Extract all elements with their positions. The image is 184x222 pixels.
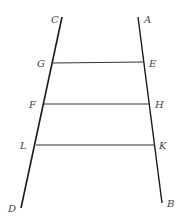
label-b: B [166, 198, 174, 209]
label-k: K [158, 140, 167, 151]
label-l: L [19, 140, 27, 151]
line-cd [21, 17, 62, 208]
label-c: C [51, 14, 59, 25]
label-d: D [7, 203, 16, 214]
label-g: G [37, 58, 45, 69]
label-f: F [28, 99, 37, 110]
rung-ge [53, 62, 144, 63]
label-a: A [143, 14, 151, 25]
label-h: H [154, 99, 164, 110]
ladder-diagram: C A G E F H L K D B [0, 0, 184, 222]
line-ab [138, 17, 162, 203]
label-e: E [148, 58, 157, 69]
